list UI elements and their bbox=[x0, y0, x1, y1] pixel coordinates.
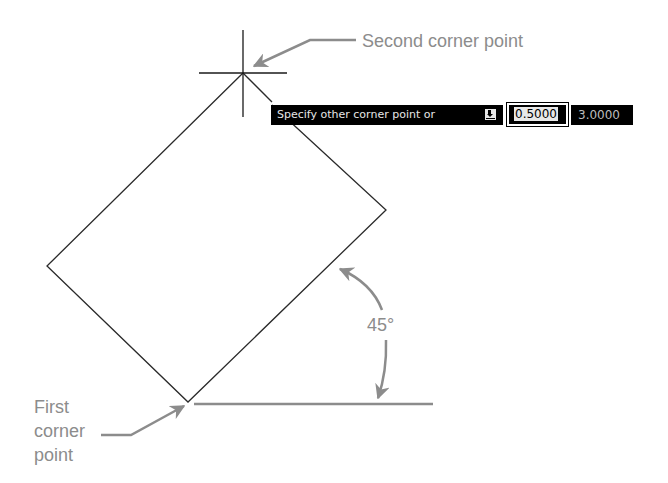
angle-label: 45° bbox=[367, 314, 394, 336]
angle-arc-upper-arrow-icon bbox=[340, 269, 382, 310]
dynamic-input-prompt: Specify other corner point or bbox=[277, 105, 435, 125]
first-corner-label-line: First bbox=[34, 395, 114, 419]
second-corner-leader-arrow-icon bbox=[254, 40, 356, 66]
dynamic-input-x-value[interactable]: 0.5000 bbox=[513, 107, 558, 121]
dynamic-input-y-value[interactable]: 3.0000 bbox=[578, 108, 620, 122]
second-corner-label: Second corner point bbox=[362, 30, 523, 52]
first-corner-label-line: point bbox=[34, 443, 114, 467]
dynamic-input-x-field[interactable]: 0.5000 bbox=[507, 103, 568, 126]
dynamic-input-y-field[interactable]: 3.0000 bbox=[571, 105, 633, 125]
first-corner-label-line: corner bbox=[34, 419, 114, 443]
down-arrow-options-icon[interactable] bbox=[485, 109, 496, 120]
angle-arc-lower-arrow-icon bbox=[378, 340, 386, 398]
dynamic-input-tooltip: Specify other corner point or bbox=[271, 105, 503, 125]
first-corner-label: First corner point bbox=[34, 395, 114, 467]
